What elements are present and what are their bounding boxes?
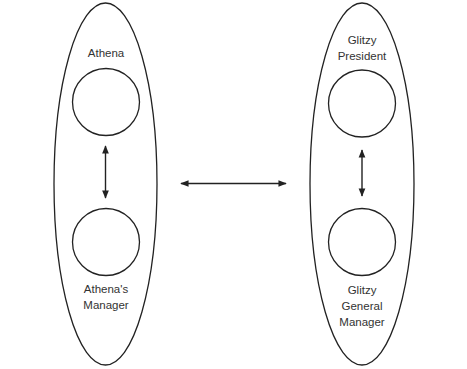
athenas-manager-label-line1: Athena's <box>46 281 166 297</box>
glitzy-general-manager-label-line3: Manager <box>302 314 422 330</box>
athena-label-text: Athena <box>88 47 124 59</box>
glitzy-general-manager-label-line2: General <box>302 298 422 314</box>
glitzy-general-manager-node <box>329 209 396 276</box>
glitzy-general-manager-label-line1: Glitzy <box>302 282 422 298</box>
athena-node <box>73 69 140 136</box>
glitzy-president-label-line1: Glitzy <box>302 32 422 48</box>
glitzy-general-manager-label: Glitzy General Manager <box>302 282 422 330</box>
athenas-manager-label-line2: Manager <box>46 297 166 313</box>
glitzy-president-node <box>329 70 396 137</box>
glitzy-president-label: Glitzy President <box>302 32 422 64</box>
athena-label: Athena <box>46 45 166 61</box>
glitzy-president-label-line2: President <box>302 48 422 64</box>
athenas-manager-label: Athena's Manager <box>46 281 166 313</box>
athenas-manager-node <box>73 209 140 276</box>
